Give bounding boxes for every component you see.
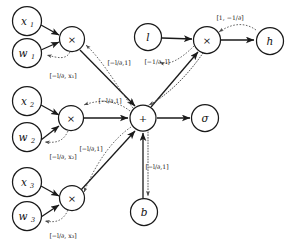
node-w2[interactable]: w 2 <box>13 123 42 152</box>
node-w3-subscript: 3 <box>31 216 35 224</box>
node-plus[interactable]: + <box>130 105 156 131</box>
node-multiply-1[interactable]: × <box>60 27 85 52</box>
node-l[interactable]: l <box>135 24 162 51</box>
node-b[interactable]: b <box>131 199 158 226</box>
edge-l-multop <box>162 38 192 39</box>
grad-label-x3: [−l/∂, x₃] <box>49 232 76 239</box>
grad-label-x2: [−l/∂, x₂] <box>49 153 76 160</box>
grad-label-mul1-plus: [−l/∂,1] <box>107 59 130 66</box>
node-x1-subscript: 1 <box>30 21 34 29</box>
node-multiply-3-label: × <box>68 193 76 204</box>
node-w3-label: w <box>19 210 28 222</box>
node-b-label: b <box>141 206 148 218</box>
node-multiply-1-label: × <box>68 34 76 45</box>
node-x3-subscript: 3 <box>30 182 34 190</box>
grad-edge-h-multop <box>219 25 256 32</box>
node-x2[interactable]: x 2 <box>13 87 42 116</box>
node-multiply-3[interactable]: × <box>60 186 85 211</box>
node-plus-label: + <box>139 113 147 124</box>
node-w3[interactable]: w 3 <box>13 202 42 231</box>
edge-w1-mul1 <box>41 42 59 50</box>
edge-x3-mul3 <box>41 186 59 196</box>
node-w2-label: w <box>19 131 28 143</box>
node-x1-label: x <box>21 15 27 27</box>
node-w1[interactable]: w 1 <box>13 39 42 68</box>
node-w1-subscript: 1 <box>31 53 35 61</box>
node-x3-label: x <box>21 176 27 188</box>
diagram-canvas: x 1 w 1 × x 2 w <box>0 0 292 246</box>
grad-label-mul3-plus: [−l/∂,1] <box>79 145 102 152</box>
node-x2-label: x <box>21 95 27 107</box>
grad-label-x1: [−l/∂, x₁] <box>49 72 76 79</box>
computational-graph: x 1 w 1 × x 2 w <box>0 0 292 246</box>
grad-label-h-multop: [1, −1/∂] <box>216 14 243 21</box>
node-w2-subscript: 2 <box>30 137 35 145</box>
node-multiply-top[interactable]: × <box>194 27 221 54</box>
edge-w2-mul2 <box>41 126 59 140</box>
node-h[interactable]: h <box>257 28 284 55</box>
node-multiply-2[interactable]: × <box>59 106 84 131</box>
grad-label-l-multop: [−1/∂, l] <box>144 58 169 65</box>
edge-x1-mul1 <box>41 25 59 35</box>
grad-label-mul2-plus: [−l/∂,1] <box>98 97 121 104</box>
node-x3[interactable]: x 3 <box>13 168 42 197</box>
edge-mul3-plus <box>81 131 135 190</box>
node-sigma[interactable]: σ <box>192 105 219 132</box>
node-multiply-top-label: × <box>203 35 211 46</box>
node-x1[interactable]: x 1 <box>13 7 42 36</box>
node-x2-subscript: 2 <box>29 101 34 109</box>
grad-edge-plus-mul3 <box>84 127 131 192</box>
grad-edge-mul2-w2 <box>45 131 68 142</box>
grad-edge-mul1-w1 <box>47 52 70 58</box>
node-multiply-2-label: × <box>67 113 75 124</box>
node-sigma-label: σ <box>201 112 209 124</box>
grad-label-b-plus: [−l/∂,1] <box>145 163 168 170</box>
node-l-label: l <box>146 31 149 43</box>
node-h-label: h <box>267 35 274 47</box>
node-w1-label: w <box>19 47 28 59</box>
edge-w3-mul3 <box>41 205 59 217</box>
edge-x2-mul2 <box>41 105 59 115</box>
